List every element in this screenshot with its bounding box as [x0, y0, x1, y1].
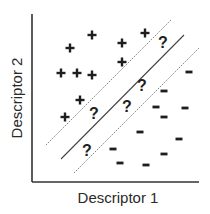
upper-margin-line — [46, 20, 171, 145]
minus-icon — [117, 162, 124, 165]
question-mark-icon: ? — [137, 77, 147, 94]
question-mark-icon: ? — [158, 34, 168, 51]
plus-icon — [61, 113, 70, 122]
question-mark-icon: ? — [122, 98, 132, 115]
minus-icon — [176, 138, 183, 141]
minus-icon — [110, 148, 117, 151]
plus-icon — [118, 39, 127, 48]
minus-icon — [137, 131, 144, 134]
minus-icon — [186, 71, 193, 74]
data-points: ????? — [57, 29, 193, 167]
minus-icon — [153, 106, 160, 109]
plus-icon — [66, 44, 75, 53]
plus-icon — [76, 96, 85, 105]
plus-icon — [118, 58, 127, 67]
plus-icon — [57, 69, 66, 78]
minus-icon — [161, 90, 168, 93]
axes — [32, 14, 199, 182]
minus-icon — [182, 107, 189, 110]
minus-icon — [161, 116, 168, 119]
plus-icon — [88, 71, 97, 80]
minus-icon — [161, 153, 168, 156]
minus-icon — [143, 164, 150, 167]
question-mark-icon: ? — [89, 105, 99, 122]
y-axis-label: Descriptor 2 — [8, 58, 25, 139]
x-axis-label: Descriptor 1 — [78, 189, 159, 206]
svm-diagram: ????? Descriptor 1 Descriptor 2 — [0, 0, 210, 214]
plus-icon — [141, 29, 150, 38]
plus-icon — [88, 31, 97, 40]
plus-icon — [73, 69, 82, 78]
question-mark-icon: ? — [82, 142, 92, 159]
